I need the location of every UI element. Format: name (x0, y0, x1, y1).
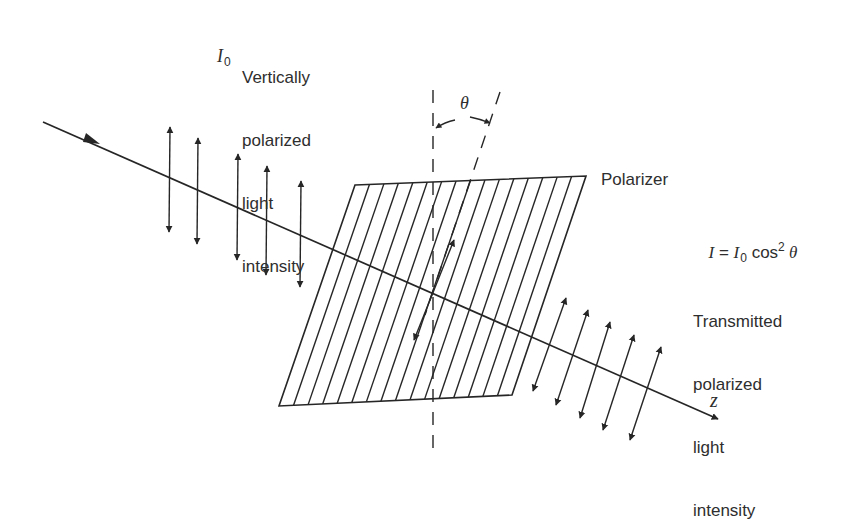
intensity-symbol: I (217, 46, 223, 66)
law-equals: = (714, 243, 733, 262)
tilted-double-arrow-icon (630, 347, 661, 440)
grating-line (454, 178, 529, 398)
z-axis-label: z (710, 390, 718, 411)
grating-line (483, 177, 557, 396)
polarizer-label: Polarizer (601, 169, 668, 190)
grating-line (381, 181, 456, 401)
malus-law-equation: I = I0 cos2 θ (700, 221, 797, 265)
theta-label: θ (460, 93, 469, 114)
z-axis-beam (43, 122, 718, 419)
tilted-double-arrow-icon (556, 310, 588, 405)
grating-line (497, 177, 571, 396)
grating-line (439, 179, 514, 399)
incident-line-4: intensity (242, 256, 311, 277)
transmitted-line-2: polarized (693, 374, 782, 395)
law-exponent: 2 (778, 240, 785, 254)
transmitted-line-3: light (693, 437, 782, 458)
transmitted-polarization-arrows (533, 298, 661, 440)
incident-line-1: Vertically (242, 67, 311, 88)
law-subscript: 0 (740, 251, 747, 265)
law-angle: θ (785, 243, 798, 262)
theta-angle-indicator (436, 117, 490, 128)
incident-line-2: polarized (242, 130, 311, 151)
vertical-double-arrow-icon (169, 127, 170, 232)
grating-line (410, 180, 485, 400)
tilted-double-arrow-icon (603, 335, 634, 430)
grating-line (323, 183, 399, 404)
theta-arrow-left (436, 120, 455, 128)
law-func: cos (747, 243, 778, 262)
transmitted-line-1: Transmitted (693, 311, 782, 332)
beam-direction-arrow-icon (83, 133, 100, 144)
grating-line (352, 182, 427, 402)
transmitted-description: Transmitted polarized light intensity (693, 269, 782, 523)
grating-line (337, 183, 413, 404)
transmitted-line-4: intensity (693, 500, 782, 521)
tilted-double-arrow-icon (533, 298, 566, 391)
law-symbol: I (734, 243, 740, 262)
incident-line-3: light (242, 193, 311, 214)
incident-intensity-symbol: I0 (208, 25, 231, 69)
grating-line (425, 179, 500, 399)
theta-arrow-right (470, 117, 490, 123)
grating-line (468, 178, 542, 397)
incident-description: Vertically polarized light intensity (242, 25, 311, 298)
intensity-subscript: 0 (224, 55, 231, 69)
grating-line (308, 184, 384, 405)
vertical-double-arrow-icon (197, 138, 198, 244)
vertical-double-arrow-icon (237, 154, 238, 260)
